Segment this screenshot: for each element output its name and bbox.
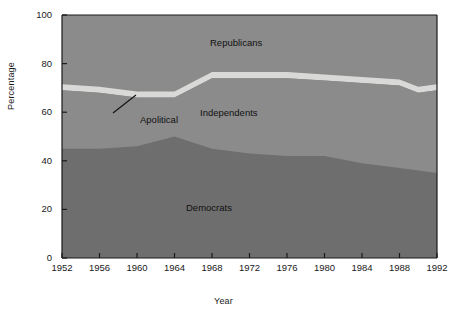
x-tick-label: 1956	[83, 262, 117, 273]
chart-figure: 100806040200 195219561960196419681972197…	[0, 0, 475, 319]
x-axis-ticklabels: 1952195619601964196819721976198019841988…	[0, 262, 475, 278]
y-tick-label: 100	[26, 9, 52, 20]
y-tick-label: 60	[26, 106, 52, 117]
x-tick-label: 1980	[308, 262, 342, 273]
y-axis-title: Percentage	[6, 62, 16, 110]
x-tick-label: 1964	[158, 262, 192, 273]
y-tick-label: 80	[26, 58, 52, 69]
plot-areas	[62, 15, 437, 258]
x-tick-label: 1992	[420, 262, 454, 273]
x-tick-label: 1984	[345, 262, 379, 273]
x-tick-label: 1952	[45, 262, 79, 273]
series-label-republicans: Republicans	[210, 37, 262, 48]
series-label-apolitical: Apolitical	[140, 114, 178, 125]
x-tick-label: 1972	[233, 262, 267, 273]
x-tick-label: 1976	[270, 262, 304, 273]
x-tick-label: 1968	[195, 262, 229, 273]
y-tick-label: 40	[26, 155, 52, 166]
x-axis-title: Year	[214, 296, 233, 306]
series-label-independents: Independents	[200, 107, 258, 118]
x-tick-label: 1988	[383, 262, 417, 273]
y-tick-label: 20	[26, 203, 52, 214]
series-label-democrats: Democrats	[186, 202, 232, 213]
x-tick-label: 1960	[120, 262, 154, 273]
